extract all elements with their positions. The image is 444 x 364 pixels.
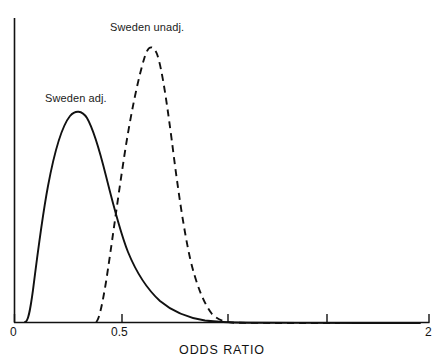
curve-sweden-adj — [25, 112, 420, 323]
x-axis-title: ODDS RATIO — [0, 343, 444, 357]
series-label-sweden-adj: Sweden adj. — [45, 92, 107, 104]
figure-odds-ratio-distributions: EPIDEMIOLOGIC STUDY 333 Sweden unadj. Sw… — [0, 0, 444, 364]
plot-canvas — [0, 0, 444, 364]
series-label-sweden-unadj: Sweden unadj. — [110, 21, 184, 33]
x-tick-label-2: 2 — [425, 325, 432, 339]
x-tick-label-0point5: 0.5 — [111, 325, 128, 339]
curve-sweden-unadj — [96, 47, 340, 323]
x-tick-label-0: 0 — [10, 325, 17, 339]
